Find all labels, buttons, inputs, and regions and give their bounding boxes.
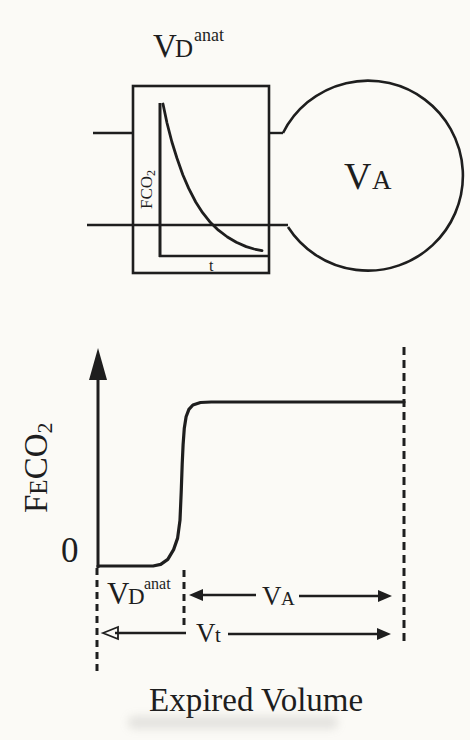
va-label-base: V <box>262 581 282 611</box>
figure-canvas: V D anat V A FCO2 t FECO2 0 <box>0 0 470 740</box>
va-label-subscript: A <box>281 588 295 609</box>
vt-label-subscript: t <box>215 623 221 647</box>
paper-background <box>0 0 470 740</box>
inset-ylabel-f: F <box>137 200 156 209</box>
model-title-superscript: anat <box>194 25 224 45</box>
vt-label-base: V <box>196 618 216 648</box>
inset-ylabel-sub2: 2 <box>144 170 158 176</box>
graph-ylabel-sub2: 2 <box>32 423 57 434</box>
model-title-subscript: D <box>175 35 193 62</box>
balloon-label-subscript: A <box>372 165 392 195</box>
deadspace-label-subscript: D <box>128 584 145 609</box>
graph-ylabel-co: CO <box>18 434 54 480</box>
graph-y-axis-label: FECO2 <box>18 423 57 513</box>
balloon-label-base: V <box>344 155 372 197</box>
inset-ylabel-co: CO <box>137 176 156 200</box>
origin-zero-label: 0 <box>61 531 79 570</box>
graph-ylabel-e: E <box>25 479 52 494</box>
x-axis-title: Expired Volume <box>149 682 363 718</box>
page-bleed-artifact <box>128 716 338 729</box>
model-title-base: V <box>153 28 177 64</box>
deadspace-label-base: V <box>107 576 130 611</box>
deadspace-label-superscript: anat <box>144 575 171 592</box>
inset-x-axis-label: t <box>209 257 214 274</box>
graph-ylabel-f: F <box>18 495 54 513</box>
